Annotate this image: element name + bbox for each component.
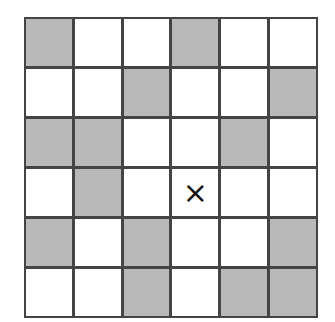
grid-cell-r3-c3[interactable]: × (172, 169, 218, 216)
grid-cell-r1-c5[interactable] (270, 69, 316, 116)
grid-cell-r1-c1[interactable] (75, 69, 121, 116)
grid-cell-r5-c3[interactable] (172, 269, 218, 316)
grid-cell-r4-c0[interactable] (26, 219, 72, 266)
grid-cell-r2-c5[interactable] (270, 119, 316, 166)
grid-cell-r5-c4[interactable] (221, 269, 267, 316)
grid-cell-r1-c3[interactable] (172, 69, 218, 116)
grid-cell-r4-c4[interactable] (221, 219, 267, 266)
grid-cell-r5-c5[interactable] (270, 269, 316, 316)
grid-cell-r2-c2[interactable] (124, 119, 170, 166)
grid-cell-r4-c1[interactable] (75, 219, 121, 266)
grid-cell-r0-c3[interactable] (172, 19, 218, 66)
grid-cell-r0-c1[interactable] (75, 19, 121, 66)
grid-cell-r1-c4[interactable] (221, 69, 267, 116)
grid-cell-r0-c5[interactable] (270, 19, 316, 66)
grid-cell-r4-c5[interactable] (270, 219, 316, 266)
grid-cell-r2-c0[interactable] (26, 119, 72, 166)
grid-cell-r2-c1[interactable] (75, 119, 121, 166)
x-mark-icon: × (183, 178, 208, 208)
grid-cell-r3-c0[interactable] (26, 169, 72, 216)
grid-cell-r4-c2[interactable] (124, 219, 170, 266)
puzzle-grid: × (24, 17, 318, 318)
grid-cell-r4-c3[interactable] (172, 219, 218, 266)
grid-cell-r0-c0[interactable] (26, 19, 72, 66)
grid-cell-r3-c1[interactable] (75, 169, 121, 216)
grid-cell-r2-c4[interactable] (221, 119, 267, 166)
grid-cell-r3-c4[interactable] (221, 169, 267, 216)
grid-cell-r1-c2[interactable] (124, 69, 170, 116)
grid-cell-r1-c0[interactable] (26, 69, 72, 116)
grid-cell-r2-c3[interactable] (172, 119, 218, 166)
grid-cell-r3-c2[interactable] (124, 169, 170, 216)
grid-cell-r0-c2[interactable] (124, 19, 170, 66)
grid-cell-r5-c2[interactable] (124, 269, 170, 316)
grid-cell-r5-c1[interactable] (75, 269, 121, 316)
grid-cell-r0-c4[interactable] (221, 19, 267, 66)
grid-cell-r3-c5[interactable] (270, 169, 316, 216)
grid-cell-r5-c0[interactable] (26, 269, 72, 316)
